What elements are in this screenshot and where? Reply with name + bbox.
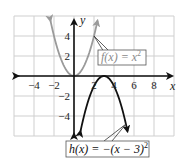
curve-h bbox=[81, 76, 128, 131]
x-tick-labels: −4−22468 bbox=[28, 79, 157, 91]
h-label: h(x) = −(x − 3)2 bbox=[69, 141, 148, 156]
x-tick-label: 2 bbox=[91, 79, 97, 91]
chart-canvas: x y −4−22468 42−2−4 f(x) = x2 h(x) = −(x… bbox=[0, 0, 182, 165]
y-tick-label: −4 bbox=[58, 110, 70, 122]
y-tick-label: 2 bbox=[65, 50, 71, 62]
y-axis-label: y bbox=[79, 13, 86, 27]
x-tick-label: 8 bbox=[151, 79, 157, 91]
x-axis-label: x bbox=[169, 79, 176, 93]
x-tick-label: 6 bbox=[131, 79, 137, 91]
h-label-callout: h(x) = −(x − 3)2 bbox=[66, 124, 149, 157]
f-label: f(x) = x2 bbox=[101, 49, 141, 64]
f-label-callout: f(x) = x2 bbox=[94, 36, 146, 65]
y-tick-label: 4 bbox=[65, 30, 71, 42]
x-tick-label: 4 bbox=[111, 79, 117, 91]
y-tick-label: −2 bbox=[58, 90, 70, 102]
x-tick-label: −4 bbox=[28, 79, 40, 91]
